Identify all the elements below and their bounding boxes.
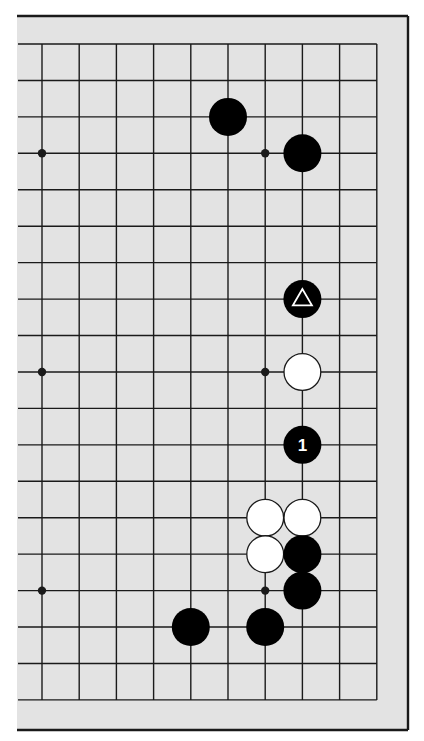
move-number-label: 1 xyxy=(298,436,307,455)
black-stone: 1 xyxy=(283,426,321,464)
black-stone xyxy=(283,134,321,172)
black-stone xyxy=(283,572,321,610)
go-board: 1 xyxy=(0,0,424,741)
go-board-diagram: 1 xyxy=(0,0,424,741)
star-point xyxy=(38,586,46,594)
star-point xyxy=(261,368,269,376)
black-stone xyxy=(283,280,321,318)
white-stone xyxy=(284,354,321,391)
black-stone xyxy=(172,608,210,646)
white-stone xyxy=(284,499,321,536)
white-stone xyxy=(247,536,284,573)
star-point xyxy=(261,586,269,594)
star-point xyxy=(38,368,46,376)
star-point xyxy=(261,149,269,157)
black-stone xyxy=(246,608,284,646)
white-stone xyxy=(247,499,284,536)
black-stone xyxy=(283,535,321,573)
star-point xyxy=(38,149,46,157)
black-stone xyxy=(209,98,247,136)
